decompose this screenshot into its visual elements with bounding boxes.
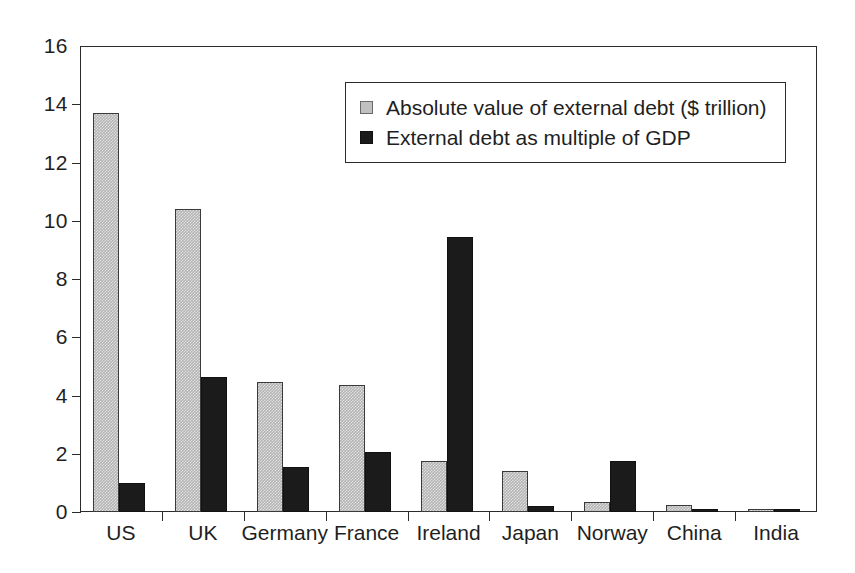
bar-norway-series-2 (610, 461, 636, 512)
bar-india-series-2 (774, 509, 800, 512)
y-axis: 0246810121416 (0, 46, 68, 512)
x-tick-label-norway: Norway (577, 521, 648, 545)
x-tick-mark (326, 512, 327, 521)
bar-china-series-1 (666, 505, 692, 512)
legend-item-label: External debt as multiple of GDP (386, 127, 691, 148)
bar-india-series-1 (748, 509, 774, 512)
y-tick-label: 16 (44, 34, 68, 58)
x-tick-mark (408, 512, 409, 521)
x-tick-mark (489, 512, 490, 521)
bar-norway-series-1 (584, 502, 610, 512)
chart-legend: Absolute value of external debt ($ trill… (345, 82, 786, 163)
bar-china-series-2 (692, 509, 718, 512)
bar-france-series-2 (365, 452, 391, 512)
bar-ireland-series-1 (421, 461, 447, 512)
y-tick-label: 14 (44, 92, 68, 116)
bar-japan-series-1 (502, 471, 528, 512)
bar-chart-figure: 0246810121416 USUKGermanyFranceIrelandJa… (0, 0, 855, 573)
light-gray-square-icon (360, 101, 373, 114)
x-tick-mark (653, 512, 654, 521)
y-tick-label: 12 (44, 151, 68, 175)
x-tick-mark (571, 512, 572, 521)
legend-item-label: Absolute value of external debt ($ trill… (386, 97, 767, 118)
x-tick-label-us: US (106, 521, 135, 545)
y-tick-label: 0 (56, 500, 68, 524)
bar-uk-series-2 (201, 377, 227, 512)
x-tick-mark (244, 512, 245, 521)
bar-france-series-1 (339, 385, 365, 512)
black-square-icon (360, 131, 373, 144)
x-tick-label-germany: Germany (242, 521, 328, 545)
y-tick-label: 8 (56, 267, 68, 291)
x-tick-mark (735, 512, 736, 521)
bar-germany-series-2 (283, 467, 309, 512)
x-tick-label-ireland: Ireland (416, 521, 480, 545)
bar-us-series-2 (119, 483, 145, 512)
x-tick-label-uk: UK (188, 521, 217, 545)
x-tick-label-france: France (334, 521, 399, 545)
y-tick-label: 4 (56, 384, 68, 408)
x-tick-label-japan: Japan (502, 521, 559, 545)
y-tick-mark (72, 512, 81, 513)
bar-us-series-1 (93, 113, 119, 512)
bar-japan-series-2 (528, 506, 554, 512)
legend-item-2: External debt as multiple of GDP (360, 122, 767, 152)
bar-uk-series-1 (175, 209, 201, 512)
y-tick-label: 6 (56, 325, 68, 349)
x-tick-mark (162, 512, 163, 521)
x-tick-label-india: India (753, 521, 799, 545)
x-tick-label-china: China (667, 521, 722, 545)
legend-item-1: Absolute value of external debt ($ trill… (360, 92, 767, 122)
bar-ireland-series-2 (447, 237, 473, 512)
y-tick-label: 10 (44, 209, 68, 233)
y-tick-label: 2 (56, 442, 68, 466)
bar-germany-series-1 (257, 382, 283, 512)
